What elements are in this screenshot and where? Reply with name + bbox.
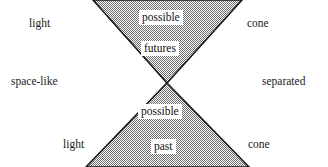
- label-space-like: space-like: [11, 76, 58, 88]
- past-light-cone-region: [86, 83, 249, 167]
- label-cone-bottom: cone: [248, 139, 270, 151]
- region-label-possible-past: possible: [138, 104, 182, 119]
- region-label-past: past: [151, 139, 176, 154]
- label-separated: separated: [262, 76, 305, 88]
- light-cone-figure: light cone space-like separated light co…: [0, 0, 328, 167]
- region-label-possible-future: possible: [139, 10, 183, 25]
- label-cone-top: cone: [247, 18, 269, 30]
- label-light-top: light: [29, 18, 50, 30]
- region-label-futures: futures: [141, 41, 179, 56]
- label-light-bottom: light: [63, 139, 84, 151]
